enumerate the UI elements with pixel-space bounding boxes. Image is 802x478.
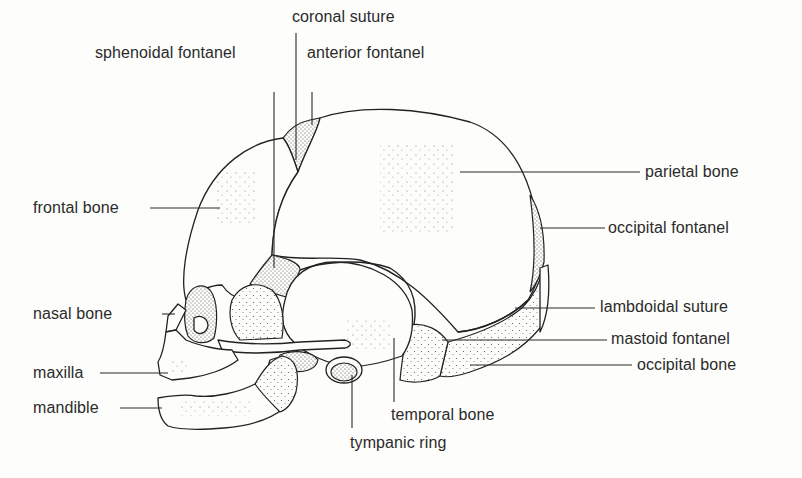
frontal-bone-texture	[215, 170, 255, 225]
temporal-texture	[345, 320, 390, 350]
skull-diagram: coronal suture sphenoidal fontanel anter…	[0, 0, 802, 478]
label-sphenoidal-fontanel: sphenoidal fontanel	[95, 44, 236, 62]
mandible-texture	[180, 400, 250, 416]
lacrimal-bone	[194, 316, 208, 333]
orbit-shape	[185, 286, 217, 343]
parietal-bone-texture	[380, 145, 455, 235]
sphenoid-region	[230, 285, 283, 340]
label-frontal-bone: frontal bone	[33, 199, 119, 217]
tympanic-ring-inner	[331, 363, 357, 381]
label-occipital-bone: occipital bone	[637, 356, 736, 374]
temporal-bone-shape	[283, 262, 413, 366]
label-tympanic-ring: tympanic ring	[350, 434, 446, 452]
label-coronal-suture: coronal suture	[292, 8, 395, 26]
label-lambdoidal-suture: lambdoidal suture	[600, 298, 728, 316]
occipital-edge	[540, 265, 549, 332]
maxilla-texture	[170, 360, 190, 374]
label-maxilla: maxilla	[33, 364, 84, 382]
label-mastoid-fontanel: mastoid fontanel	[611, 330, 730, 348]
label-nasal-bone: nasal bone	[33, 305, 112, 323]
label-occipital-fontanel: occipital fontanel	[608, 219, 729, 237]
nasal-bone-shape	[166, 304, 186, 332]
label-mandible: mandible	[33, 399, 99, 417]
label-anterior-fontanel: anterior fontanel	[307, 44, 424, 62]
label-parietal-bone: parietal bone	[645, 163, 739, 181]
label-temporal-bone: temporal bone	[391, 406, 495, 424]
